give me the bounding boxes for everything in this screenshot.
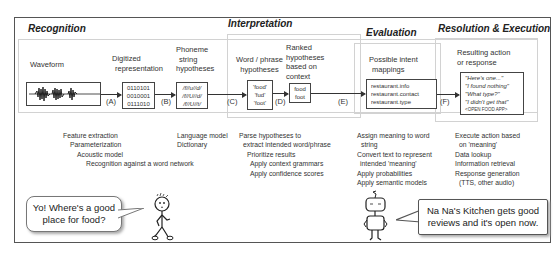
phoneme-box: /f//u//d//f//U//d//f//U//t/ [176, 82, 208, 109]
arrow-e [311, 93, 365, 94]
stage-title-recognition: Recognition [28, 23, 86, 34]
phoneme-label: Phonemestringhypotheses [176, 45, 214, 74]
stage-title-interpretation: Interpretation [228, 18, 292, 29]
evaluation-description: Assign meaning to word string Convert te… [357, 131, 432, 187]
ranked-label: Rankedhypothesesbased oncontext [286, 43, 324, 81]
step-a: (A) [106, 97, 116, 106]
step-d-visible: (D) [275, 97, 285, 106]
user-bubble-tail-icon [118, 208, 146, 222]
waveform-label: Waveform [30, 60, 64, 70]
stage-title-evaluation: Evaluation [366, 27, 417, 38]
arrow-b [155, 94, 175, 95]
arrow-c [208, 94, 246, 95]
ranked-box: foodfoot [289, 83, 311, 103]
intent-box: restaurant.inforestaurant.contactrestaur… [366, 79, 437, 109]
digitized-label: Digitizedrepresentation [112, 54, 163, 73]
language-model-description: Language model Dictionary [177, 131, 228, 150]
step-c: (C) [227, 97, 237, 106]
waveform-box [26, 82, 101, 106]
waveform-icon [27, 83, 100, 105]
response-label: Resulting actionor response [457, 48, 510, 67]
step-b: (B) [161, 97, 171, 106]
interpretation-description: Parse hypotheses to extract intended wor… [239, 131, 331, 178]
digitized-box: 011010100100010111010 [122, 82, 155, 109]
recognition-description: Feature extraction Parameterization Acou… [63, 131, 194, 169]
word-phrase-label: Word / phrasehypotheses [236, 55, 283, 74]
stage-title-resolution: Resolution & Execution [438, 23, 550, 34]
assistant-speech-bubble: Na Na's Kitchen gets good reviews and it… [418, 199, 548, 235]
user-speech-bubble: Yo! Where's a good place for food? [26, 196, 122, 232]
step-f: (F) [440, 97, 450, 106]
robot-icon [362, 190, 392, 244]
stick-figure-person-icon [148, 193, 180, 243]
arrow-a [101, 94, 121, 95]
word-phrase-box: 'food''fud''foot' [247, 80, 273, 110]
response-box: "Here's one...""I found nothing""What ty… [460, 72, 524, 115]
step-e: (E) [338, 97, 348, 106]
resolution-description: Execute action based on 'meaning' Data l… [455, 131, 520, 187]
arrow-d [273, 93, 288, 94]
intent-label: Possible intentmappings [369, 55, 418, 74]
arrow-f [437, 94, 459, 95]
